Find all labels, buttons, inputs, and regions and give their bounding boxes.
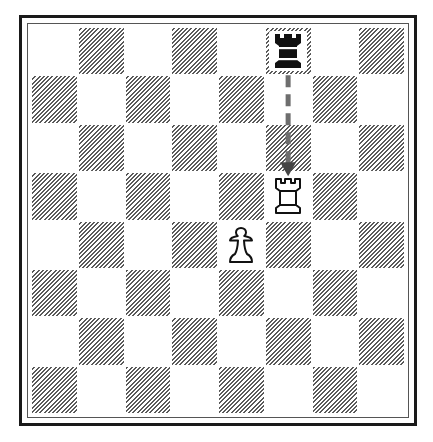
chess-board — [31, 27, 405, 414]
square-b2 — [79, 318, 124, 364]
white-pawn-icon — [221, 224, 261, 266]
square-h1 — [358, 366, 405, 414]
square-c1 — [126, 367, 171, 413]
square-a7 — [32, 76, 77, 122]
black-rook-icon — [269, 31, 307, 71]
square-c2 — [125, 317, 172, 365]
square-e2 — [218, 317, 265, 365]
square-d8 — [172, 28, 217, 74]
square-g5 — [313, 173, 358, 219]
square-g7 — [313, 76, 358, 122]
square-b5 — [78, 172, 125, 220]
square-b7 — [78, 75, 125, 123]
square-f8 — [266, 28, 311, 74]
square-b6 — [79, 125, 124, 171]
square-b8 — [79, 28, 124, 74]
square-d4 — [172, 222, 217, 268]
square-g3 — [313, 270, 358, 316]
square-a2 — [31, 317, 78, 365]
square-f7 — [265, 75, 312, 123]
square-f5 — [265, 172, 312, 220]
square-c5 — [126, 173, 171, 219]
square-g1 — [313, 367, 358, 413]
square-a8 — [31, 27, 78, 75]
white-rook-icon — [268, 175, 308, 217]
square-h8 — [359, 28, 404, 74]
square-f1 — [265, 366, 312, 414]
square-d6 — [172, 125, 217, 171]
square-a6 — [31, 124, 78, 172]
square-a4 — [31, 221, 78, 269]
square-h5 — [358, 172, 405, 220]
square-g4 — [312, 221, 359, 269]
square-f6 — [266, 125, 311, 171]
square-e7 — [219, 76, 264, 122]
square-d2 — [172, 318, 217, 364]
square-b1 — [78, 366, 125, 414]
square-h3 — [358, 269, 405, 317]
square-c6 — [125, 124, 172, 172]
square-g2 — [312, 317, 359, 365]
square-c7 — [126, 76, 171, 122]
square-f4 — [266, 222, 311, 268]
square-f3 — [265, 269, 312, 317]
square-h6 — [359, 125, 404, 171]
square-a1 — [32, 367, 77, 413]
square-f2 — [266, 318, 311, 364]
square-e1 — [219, 367, 264, 413]
square-c4 — [125, 221, 172, 269]
square-g8 — [312, 27, 359, 75]
square-d7 — [171, 75, 218, 123]
square-b3 — [78, 269, 125, 317]
square-a5 — [32, 173, 77, 219]
square-d3 — [171, 269, 218, 317]
square-d1 — [171, 366, 218, 414]
square-b4 — [79, 222, 124, 268]
square-e8 — [218, 27, 265, 75]
square-e6 — [218, 124, 265, 172]
square-a3 — [32, 270, 77, 316]
square-e4 — [218, 221, 265, 269]
square-g6 — [312, 124, 359, 172]
square-e5 — [219, 173, 264, 219]
square-d5 — [171, 172, 218, 220]
square-h7 — [358, 75, 405, 123]
square-e3 — [219, 270, 264, 316]
square-c8 — [125, 27, 172, 75]
square-h2 — [359, 318, 404, 364]
square-h4 — [359, 222, 404, 268]
square-c3 — [126, 270, 171, 316]
